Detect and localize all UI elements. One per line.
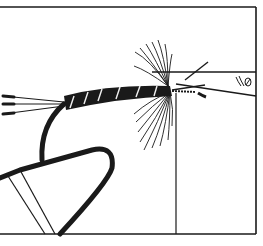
fly-tying-illustration <box>0 0 263 246</box>
illustration-canvas <box>0 0 263 246</box>
hook-bend <box>42 104 64 160</box>
hackle-fibers-upper <box>134 40 172 86</box>
frame-border <box>0 7 256 234</box>
vise-holder <box>0 149 112 234</box>
vise-holder-bar <box>8 170 55 234</box>
hackle-fibers-lower <box>134 92 173 150</box>
